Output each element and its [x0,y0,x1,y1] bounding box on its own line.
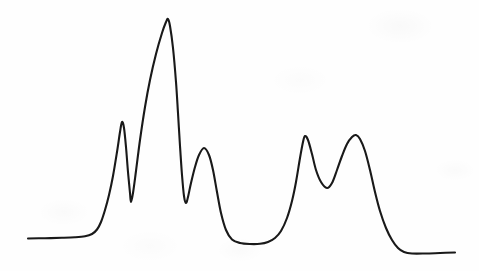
spectrum-chart [0,0,479,271]
spectrum-trace-line [28,19,455,254]
figure-canvas [0,0,479,271]
